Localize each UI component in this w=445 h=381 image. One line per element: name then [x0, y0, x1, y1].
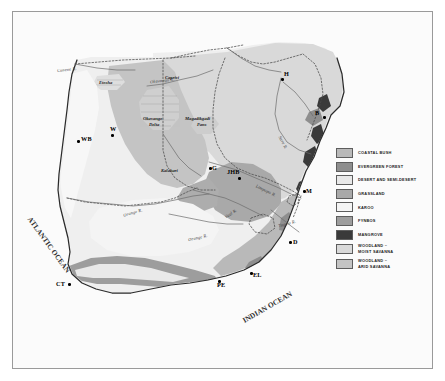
city-label-m: M — [306, 187, 312, 194]
legend-label-mangrove: MANGROVE — [358, 232, 383, 238]
legend-label-woodland-arid-savanna: WOODLAND – ARID SAVANNA — [358, 258, 390, 269]
city-label-ct: CT — [56, 280, 65, 287]
city-dot-h — [281, 78, 284, 81]
legend-swatch-woodland-moist-savanna — [336, 244, 353, 254]
city-label-pe: PE — [217, 281, 225, 288]
map-frame: ATLANTIC OCEAN INDIAN OCEAN Cunene R. Ok… — [12, 11, 433, 369]
city-label-jhb: JHB — [227, 168, 240, 175]
city-label-g: G — [212, 164, 217, 171]
city-dot-d — [289, 241, 292, 244]
map-page: ATLANTIC OCEAN INDIAN OCEAN Cunene R. Ok… — [0, 0, 445, 381]
city-label-d: D — [293, 238, 298, 245]
legend-label-woodland-moist-savanna: WOODLAND – MOIST SAVANNA — [358, 243, 393, 254]
feature-label-caprivi: Caprivi — [165, 75, 179, 80]
legend-swatch-fynbos — [336, 216, 353, 226]
feature-label-kalahari: Kalahari — [161, 168, 178, 173]
feature-label-okavango-delta: Delta — [149, 122, 159, 127]
legend-swatch-evergreen-forest — [336, 162, 353, 172]
legend-item-karoo: KAROO — [336, 202, 428, 212]
city-label-h: H — [284, 70, 289, 77]
feature-label-etosha: Etosha — [99, 80, 112, 85]
legend-item-grassland: GRASSLAND — [336, 189, 428, 199]
city-label-el: EL — [253, 271, 262, 278]
city-dot-b — [323, 116, 326, 119]
city-dot-jhb — [238, 177, 241, 180]
city-label-w: W — [110, 125, 116, 132]
legend-swatch-desert-semi-desert — [336, 175, 353, 185]
feature-label-okavango: Okavango — [143, 116, 162, 121]
legend-item-fynbos: FYNBOS — [336, 216, 428, 226]
city-dot-wb — [77, 140, 80, 143]
legend-label-desert-semi-desert: DESERT AND SEMI-DESERT — [358, 177, 416, 183]
legend-label-fynbos: FYNBOS — [358, 218, 376, 224]
legend-swatch-karoo — [336, 202, 353, 212]
city-label-b: B — [315, 109, 319, 116]
legend-swatch-grassland — [336, 189, 353, 199]
map-legend: COASTAL BUSH EVERGREEN FOREST DESERT AND… — [336, 148, 428, 273]
feature-label-magadikgadi: Magadikgadi — [185, 116, 210, 121]
legend-item-coastal-bush: COASTAL BUSH — [336, 148, 428, 158]
legend-label-karoo: KAROO — [358, 205, 374, 211]
legend-item-mangrove: MANGROVE — [336, 230, 428, 240]
legend-label-evergreen-forest: EVERGREEN FOREST — [358, 164, 403, 170]
feature-label-magadikgadi-pans: Pans — [197, 122, 206, 127]
legend-swatch-woodland-arid-savanna — [336, 259, 353, 269]
legend-item-evergreen-forest: EVERGREEN FOREST — [336, 162, 428, 172]
legend-swatch-coastal-bush — [336, 148, 353, 158]
legend-swatch-mangrove — [336, 230, 353, 240]
city-dot-w — [111, 134, 114, 137]
legend-label-coastal-bush: COASTAL BUSH — [358, 150, 392, 156]
legend-item-woodland-arid-savanna: WOODLAND – ARID SAVANNA — [336, 258, 428, 269]
legend-label-grassland: GRASSLAND — [358, 191, 385, 197]
legend-item-desert-semi-desert: DESERT AND SEMI-DESERT — [336, 175, 428, 185]
legend-item-woodland-moist-savanna: WOODLAND – MOIST SAVANNA — [336, 243, 428, 254]
city-dot-ct — [68, 283, 71, 286]
city-label-wb: WB — [81, 135, 92, 142]
